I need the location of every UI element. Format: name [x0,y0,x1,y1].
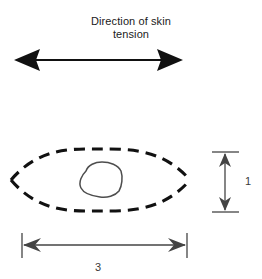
skin-excision-diagram: Direction of skin tension 3 1 [0,0,262,279]
elliptical-excision-outline [11,149,190,211]
excision-outline-lower-arc [11,180,190,211]
height-dimension-label: 1 [240,175,256,187]
skin-tension-caption: Direction of skin tension [47,15,215,41]
diagram-canvas [0,0,262,279]
skin-tension-double-arrow [14,49,183,71]
central-lesion-blob [80,162,122,197]
excision-outline-upper-arc [11,149,190,180]
width-dimension-label: 3 [86,261,110,273]
width-dimension [22,233,187,258]
height-dimension [212,152,239,212]
lesion-outline [80,162,122,197]
